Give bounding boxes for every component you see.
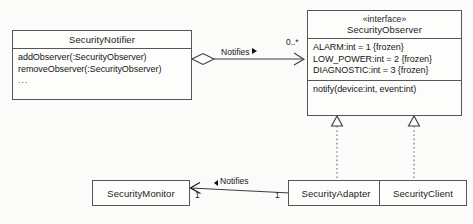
class-security-adapter[interactable]: SecurityAdapter xyxy=(288,180,384,206)
realization-client-observer xyxy=(409,116,420,180)
compartment-constants-security-observer: ALARM:int = 1 {frozen} LOW_POWER:int = 2… xyxy=(308,38,461,80)
class-title-security-monitor: SecurityMonitor xyxy=(107,188,175,199)
operation-notify: notify(device:int, event:int) xyxy=(313,84,456,96)
constant-low-power: LOW_POWER:int = 2 {frozen} xyxy=(313,54,456,66)
class-security-notifier[interactable]: SecurityNotifier addObserver(:SecurityOb… xyxy=(12,30,192,100)
edge-label-notifies-monitor: Notifies xyxy=(220,176,249,186)
constant-alarm: ALARM:int = 1 {frozen} xyxy=(313,42,456,54)
member-add-observer: addObserver(:SecurityObserver) xyxy=(18,52,186,64)
realization-adapter-observer xyxy=(332,116,343,180)
edge-label-notifies-observer: Notifies xyxy=(221,47,250,57)
constant-diagnostic: DIAGNOSTIC:int = 3 {frozen} xyxy=(313,65,456,77)
compartment-operations-security-notifier: addObserver(:SecurityObserver) removeObs… xyxy=(13,48,191,90)
class-title-security-observer: «interface» SecurityObserver xyxy=(308,11,461,38)
multiplicity-observer-target: 0..* xyxy=(286,37,299,47)
uml-diagram-canvas: SecurityNotifier addObserver(:SecurityOb… xyxy=(0,0,473,224)
compartment-operations-security-observer: notify(device:int, event:int) xyxy=(308,80,461,99)
class-title-security-client: SecurityClient xyxy=(393,188,453,199)
multiplicity-adapter-end: 1 xyxy=(275,190,280,200)
multiplicity-monitor-end: 1 xyxy=(195,190,200,200)
direction-marker-left-icon xyxy=(214,180,218,186)
class-name-security-observer: SecurityObserver xyxy=(347,24,422,35)
member-remove-observer: removeObserver(:SecurityObserver) xyxy=(18,64,186,76)
class-title-security-notifier: SecurityNotifier xyxy=(13,31,191,48)
class-title-security-adapter: SecurityAdapter xyxy=(301,188,370,199)
member-ellipsis: ... xyxy=(18,75,186,87)
class-security-observer[interactable]: «interface» SecurityObserver ALARM:int =… xyxy=(307,10,462,116)
direction-marker-right-icon xyxy=(252,48,257,54)
stereotype-interface: «interface» xyxy=(310,14,459,24)
class-security-client[interactable]: SecurityClient xyxy=(379,180,467,206)
class-security-monitor[interactable]: SecurityMonitor xyxy=(92,180,190,206)
